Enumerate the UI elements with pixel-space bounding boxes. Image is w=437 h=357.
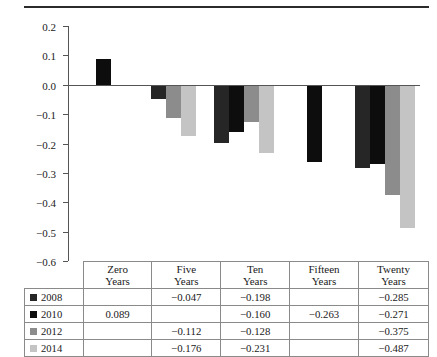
col-header-line1: Twenty	[359, 263, 428, 275]
y-tick: −0.5	[63, 232, 68, 233]
legend-label: 2014	[41, 343, 62, 354]
table-cell: −0.176	[152, 340, 221, 357]
y-tick-label: 0.0	[22, 80, 56, 92]
table-cell: −0.112	[152, 323, 221, 340]
col-header-line2: Years	[152, 275, 220, 287]
y-tick: −0.2	[63, 144, 68, 145]
zero-baseline	[68, 85, 420, 86]
y-tick-label: −0.4	[22, 197, 56, 209]
legend-row-2012: 2012	[25, 323, 84, 340]
bar-2010-fifteen-years	[307, 85, 322, 162]
table-cell	[152, 306, 221, 323]
table-row: 2008−0.047−0.198−0.285	[25, 289, 429, 306]
table-corner-cell	[25, 262, 84, 289]
bar-2008-twenty-years	[355, 85, 370, 169]
y-tick-label: 0.1	[22, 50, 56, 62]
bar-2014-ten-years	[259, 85, 274, 153]
y-tick: −0.4	[63, 202, 68, 203]
table-row: 2014−0.176−0.231−0.487	[25, 340, 429, 357]
y-tick-label: −0.2	[22, 139, 56, 151]
table-header-row: ZeroYearsFiveYearsTenYearsFifteenYearsTw…	[25, 262, 429, 289]
table-head: ZeroYearsFiveYearsTenYearsFifteenYearsTw…	[25, 262, 429, 289]
table-cell: 0.089	[83, 306, 152, 323]
y-tick: −0.3	[63, 173, 68, 174]
legend-label: 2012	[41, 326, 62, 337]
table-cell: −0.231	[221, 340, 290, 357]
table-row: 2012−0.112−0.128−0.375	[25, 323, 429, 340]
y-tick: −0.1	[63, 114, 68, 115]
table-body: 2008−0.047−0.198−0.28520100.089−0.160−0.…	[25, 289, 429, 357]
table-row: 20100.089−0.160−0.263−0.271	[25, 306, 429, 323]
plot-area: 0.20.10.0−0.1−0.2−0.3−0.4−0.5−0.6	[68, 26, 420, 261]
bar-2014-five-years	[181, 85, 196, 137]
table-col-header-4: TwentyYears	[359, 262, 429, 289]
data-table: ZeroYearsFiveYearsTenYearsFifteenYearsTw…	[24, 261, 429, 357]
legend-row-2008: 2008	[25, 289, 84, 306]
y-tick: 0.1	[63, 55, 68, 56]
bar-2008-five-years	[151, 85, 166, 99]
bar-2012-ten-years	[244, 85, 259, 123]
table-cell	[83, 323, 152, 340]
legend-swatch-icon	[30, 345, 37, 352]
table-cell	[290, 323, 359, 340]
legend-label: 2008	[41, 292, 62, 303]
figure-top-rule	[24, 6, 429, 8]
bar-2014-twenty-years	[400, 85, 415, 228]
col-header-line1: Five	[152, 263, 220, 275]
table-cell: −0.128	[221, 323, 290, 340]
table-cell	[290, 340, 359, 357]
table-col-header-2: TenYears	[221, 262, 290, 289]
bar-2010-ten-years	[229, 85, 244, 132]
table-cell: −0.487	[359, 340, 429, 357]
table-cell: −0.375	[359, 323, 429, 340]
table-cell	[83, 340, 152, 357]
table-cell: −0.285	[359, 289, 429, 306]
y-axis-line	[68, 26, 69, 261]
legend-swatch-icon	[30, 311, 37, 318]
table-cell: −0.263	[290, 306, 359, 323]
legend-row-2014: 2014	[25, 340, 84, 357]
col-header-line2: Years	[221, 275, 289, 287]
table-col-header-1: FiveYears	[152, 262, 221, 289]
col-header-line2: Years	[359, 275, 428, 287]
table-col-header-0: ZeroYears	[83, 262, 152, 289]
bar-2010-twenty-years	[370, 85, 385, 165]
bar-2012-five-years	[166, 85, 181, 118]
table-cell: −0.271	[359, 306, 429, 323]
legend-row-2010: 2010	[25, 306, 84, 323]
bar-2012-twenty-years	[385, 85, 400, 195]
table-cell	[83, 289, 152, 306]
y-tick-label: −0.5	[22, 227, 56, 239]
y-tick-label: −0.3	[22, 168, 56, 180]
col-header-line1: Fifteen	[290, 263, 358, 275]
legend-swatch-icon	[30, 294, 37, 301]
table-cell: −0.047	[152, 289, 221, 306]
y-tick-label: 0.2	[22, 21, 56, 33]
table-cell: −0.160	[221, 306, 290, 323]
legend-swatch-icon	[30, 328, 37, 335]
y-tick-label: −0.1	[22, 109, 56, 121]
legend-label: 2010	[41, 309, 62, 320]
table-cell: −0.198	[221, 289, 290, 306]
bar-2010-zero-years	[96, 59, 111, 85]
col-header-line1: Zero	[84, 263, 152, 275]
col-header-line1: Ten	[221, 263, 289, 275]
table-cell	[290, 289, 359, 306]
bar-2008-ten-years	[214, 85, 229, 143]
col-header-line2: Years	[290, 275, 358, 287]
col-header-line2: Years	[84, 275, 152, 287]
y-tick: 0.2	[63, 26, 68, 27]
table-col-header-3: FifteenYears	[290, 262, 359, 289]
